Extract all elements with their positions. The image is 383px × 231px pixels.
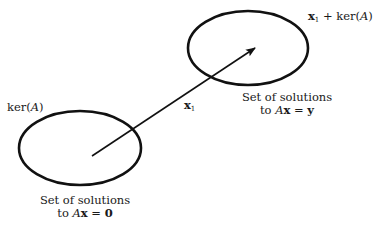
affine-set-label: x1 + ker(A) — [308, 9, 373, 24]
diagram-canvas: ker(A) x1 x1 + ker(A) Set of solutions t… — [0, 0, 383, 231]
affine-caption-line2: to Ax = y — [260, 103, 314, 117]
kernel-caption-line2: to Ax = 0 — [57, 206, 112, 220]
x1-vector-arrow — [92, 48, 255, 156]
kernel-ellipse — [19, 111, 141, 185]
affine-solution-ellipse — [188, 11, 308, 85]
kernel-label: ker(A) — [7, 100, 44, 114]
kernel-caption-line1: Set of solutions — [40, 193, 130, 207]
x1-arrow-label: x1 — [184, 98, 195, 113]
diagram-svg: ker(A) x1 x1 + ker(A) Set of solutions t… — [0, 0, 383, 231]
affine-caption-line1: Set of solutions — [242, 90, 332, 104]
